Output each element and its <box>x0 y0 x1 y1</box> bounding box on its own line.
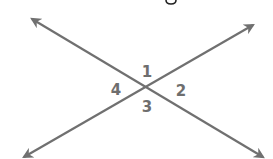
intersecting-lines-figure <box>0 0 273 159</box>
angle-label-1: 1 <box>142 65 152 80</box>
line-b <box>24 25 253 157</box>
cropped-title-glyph <box>166 0 176 4</box>
diagram-canvas: 1 2 3 4 <box>0 0 273 159</box>
angle-label-3: 3 <box>142 100 152 115</box>
angle-label-2: 2 <box>176 84 186 99</box>
angle-label-4: 4 <box>111 83 121 98</box>
